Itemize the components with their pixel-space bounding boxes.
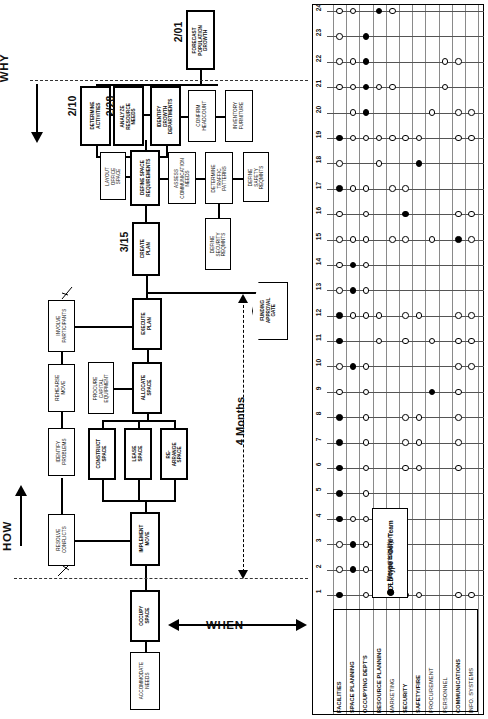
- matrix-cell-12-communications[interactable]: [455, 312, 462, 319]
- matrix-cell-2-facilities[interactable]: [336, 566, 343, 573]
- task-box-7[interactable]: LEASE SPACE: [124, 428, 152, 480]
- matrix-cell-14-facilities[interactable]: [336, 262, 343, 269]
- matrix-cell-1-communications[interactable]: [455, 592, 462, 599]
- matrix-cell-8-communications[interactable]: [455, 414, 462, 421]
- matrix-cell-4-facilities[interactable]: [336, 516, 343, 523]
- matrix-cell-22-space-planning[interactable]: [350, 58, 357, 65]
- matrix-cell-7-communications[interactable]: [455, 439, 462, 446]
- matrix-cell-2-space-planning[interactable]: [350, 566, 357, 573]
- task-box-0[interactable]: OCCUPY SPACE: [130, 590, 160, 642]
- task-box-20[interactable]: ANALYZE RESOURCE NEEDS: [113, 86, 144, 146]
- matrix-cell-10-communications[interactable]: [455, 363, 462, 370]
- matrix-cell-6-facilities[interactable]: [336, 465, 343, 472]
- matrix-cell-12-security[interactable]: [402, 312, 409, 319]
- matrix-cell-7-occupying-dept-s[interactable]: [363, 439, 370, 446]
- matrix-cell-17-facilities[interactable]: [336, 185, 343, 192]
- matrix-cell-15-security[interactable]: [402, 236, 409, 243]
- task-box-2[interactable]: RESOLVE CONFLICTS: [48, 514, 75, 566]
- matrix-cell-11-communications[interactable]: [455, 338, 462, 345]
- matrix-cell-10-info-systems[interactable]: [468, 363, 475, 370]
- task-box-15[interactable]: ASSESS COMMUNICATION NEEDS: [168, 152, 196, 204]
- matrix-cell-3-space-planning[interactable]: [350, 541, 357, 548]
- task-box-11[interactable]: EXECUTE PLAN: [132, 298, 162, 350]
- task-box-3[interactable]: IDENTIFY PROBLEMS: [48, 428, 75, 476]
- matrix-cell-16-communications[interactable]: [455, 211, 462, 218]
- task-box-18[interactable]: DEFINE SAFETY REQMNTS: [243, 152, 269, 202]
- matrix-cell-17-space-planning[interactable]: [350, 185, 357, 192]
- matrix-cell-7-facilities[interactable]: [336, 439, 343, 446]
- task-box-24[interactable]: FORECAST POPULATION GROWTH: [186, 10, 215, 70]
- matrix-cell-18-resource-planning[interactable]: [376, 160, 383, 167]
- matrix-cell-20-occupying-dept-s[interactable]: [363, 109, 370, 116]
- matrix-cell-19-facilities[interactable]: [336, 135, 343, 142]
- matrix-cell-24-facilities[interactable]: [336, 8, 343, 15]
- matrix-cell-8-facilities[interactable]: [336, 414, 343, 421]
- matrix-cell-12-safety-fire[interactable]: [416, 312, 423, 319]
- matrix-cell-5-occupying-dept-s[interactable]: [363, 490, 370, 497]
- matrix-cell-12-facilities[interactable]: [336, 312, 343, 319]
- matrix-cell-18-facilities[interactable]: [336, 160, 343, 167]
- matrix-cell-15-space-planning[interactable]: [350, 236, 357, 243]
- matrix-cell-6-security[interactable]: [402, 465, 409, 472]
- matrix-cell-15-occupying-dept-s[interactable]: [363, 236, 370, 243]
- task-box-22[interactable]: CONFIRM HEADCOUNT: [188, 90, 216, 142]
- matrix-cell-13-facilities[interactable]: [336, 287, 343, 294]
- matrix-cell-7-security[interactable]: [402, 439, 409, 446]
- matrix-cell-6-communications[interactable]: [455, 465, 462, 472]
- matrix-cell-4-space-planning[interactable]: [350, 516, 357, 523]
- matrix-cell-9-communications[interactable]: [455, 389, 462, 396]
- matrix-cell-20-procurement[interactable]: [429, 109, 436, 116]
- matrix-cell-7-safety-fire[interactable]: [416, 439, 423, 446]
- matrix-cell-10-facilities[interactable]: [336, 363, 343, 370]
- matrix-cell-23-facilities[interactable]: [336, 33, 343, 40]
- task-box-17[interactable]: DETERMINE TRAFFIC PATTERNS: [205, 152, 233, 204]
- task-box-16[interactable]: DEFINE SECURITY REQMNTS: [205, 218, 231, 270]
- matrix-cell-1-info-systems[interactable]: [468, 592, 475, 599]
- matrix-cell-1-facilities[interactable]: [336, 592, 343, 599]
- matrix-cell-5-facilities[interactable]: [336, 490, 343, 497]
- matrix-cell-24-marketing[interactable]: [389, 8, 396, 15]
- matrix-cell-19-security[interactable]: [402, 135, 409, 142]
- matrix-cell-15-marketing[interactable]: [389, 236, 396, 243]
- matrix-cell-23-occupying-dept-s[interactable]: [363, 33, 370, 40]
- matrix-cell-12-space-planning[interactable]: [350, 312, 357, 319]
- task-box-4[interactable]: REHEARSE MOVE: [48, 364, 75, 412]
- task-box-9[interactable]: PROCURE CAPITAL EQUIPMENT: [88, 362, 114, 414]
- task-box-13[interactable]: LAYOUT OFFICE SPACE: [100, 152, 126, 200]
- matrix-cell-15-communications[interactable]: [455, 236, 462, 243]
- matrix-cell-10-occupying-dept-s[interactable]: [363, 363, 370, 370]
- matrix-cell-17-security[interactable]: [402, 185, 409, 192]
- matrix-cell-15-facilities[interactable]: [336, 236, 343, 243]
- matrix-cell-17-marketing[interactable]: [389, 185, 396, 192]
- matrix-cell-20-communications[interactable]: [455, 109, 462, 116]
- matrix-cell-21-marketing[interactable]: [389, 84, 396, 91]
- matrix-cell-8-safety-fire[interactable]: [416, 414, 423, 421]
- matrix-cell-8-security[interactable]: [402, 414, 409, 421]
- matrix-cell-19-communications[interactable]: [455, 135, 462, 142]
- funding-approval-gate[interactable]: FUNDING APPROVAL GATE: [252, 282, 286, 338]
- matrix-cell-22-communications[interactable]: [455, 58, 462, 65]
- task-box-10[interactable]: ALLOCATE SPACE: [132, 362, 162, 414]
- task-box-8[interactable]: RE-ARRANGE SPACE: [160, 428, 188, 480]
- task-box-14[interactable]: DEFINE SPACE REQUIREMENTS: [130, 150, 160, 206]
- matrix-cell-3-occupying-dept-s[interactable]: [363, 541, 370, 548]
- matrix-cell-8-occupying-dept-s[interactable]: [363, 414, 370, 421]
- task-box-1[interactable]: IMPLEMENT MOVE: [130, 512, 160, 566]
- task-box-23[interactable]: INVENTORY FURNITURE: [225, 90, 253, 142]
- matrix-cell-13-occupying-dept-s[interactable]: [363, 287, 370, 294]
- task-box-21[interactable]: IDENTIFY GROWTH DEPARTMENTS: [150, 86, 181, 146]
- matrix-cell-10-space-planning[interactable]: [350, 363, 357, 370]
- matrix-cell-3-facilities[interactable]: [336, 541, 343, 548]
- matrix-cell-9-facilities[interactable]: [336, 389, 343, 396]
- matrix-cell-15-info-systems[interactable]: [468, 236, 475, 243]
- matrix-cell-20-space-planning[interactable]: [350, 109, 357, 116]
- matrix-cell-22-facilities[interactable]: [336, 58, 343, 65]
- task-box-5[interactable]: INVOLVE PARTICIPANTS: [48, 300, 75, 352]
- matrix-cell-13-space-planning[interactable]: [350, 287, 357, 294]
- task-box-12[interactable]: CREATE PLAN: [132, 222, 160, 276]
- matrix-cell-12-info-systems[interactable]: [468, 312, 475, 319]
- matrix-cell-20-info-systems[interactable]: [468, 109, 475, 116]
- matrix-cell-18-safety-fire[interactable]: [416, 160, 423, 167]
- matrix-cell-19-info-systems[interactable]: [468, 135, 475, 142]
- task-box-6[interactable]: CONSTRUCT SPACE: [88, 428, 116, 480]
